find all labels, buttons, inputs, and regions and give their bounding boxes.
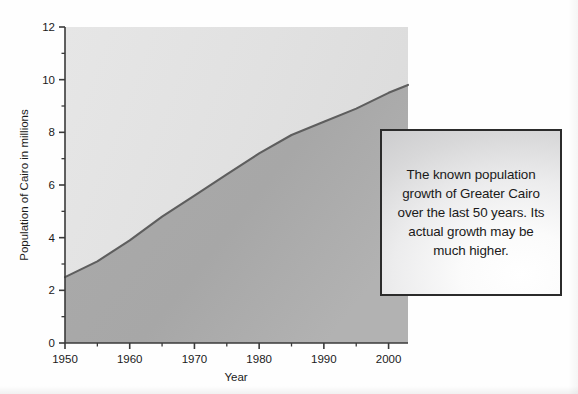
y-tick-label: 12: [42, 21, 55, 33]
y-tick-label: 2: [49, 284, 55, 296]
y-axis-ticks: 024681012: [42, 21, 65, 349]
callout-text: The known population growth of Greater C…: [392, 165, 550, 260]
y-tick-label: 4: [49, 232, 56, 244]
x-axis-title: Year: [224, 371, 247, 383]
y-tick-label: 6: [49, 179, 55, 191]
x-tick-label: 1980: [246, 353, 272, 365]
x-tick-label: 1970: [182, 353, 208, 365]
x-tick-label: 1950: [52, 353, 78, 365]
x-tick-label: 1990: [311, 353, 337, 365]
y-tick-label: 8: [49, 126, 55, 138]
x-tick-label: 2000: [376, 353, 402, 365]
y-axis-title: Population of Cairo in millions: [18, 109, 30, 261]
y-tick-label: 0: [49, 337, 55, 349]
x-axis-ticks: 195019601970198019902000: [52, 343, 401, 365]
figure-container: 024681012 195019601970198019902000 Popul…: [0, 0, 578, 394]
x-tick-label: 1960: [117, 353, 143, 365]
callout-box: The known population growth of Greater C…: [380, 129, 562, 296]
y-tick-label: 10: [42, 74, 55, 86]
